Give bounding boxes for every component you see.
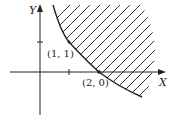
axes: [10, 8, 162, 115]
point-1-1-marker: [68, 41, 71, 44]
point-1-1-label: (1, 1): [47, 48, 74, 59]
point-2-0-label: (2, 0): [82, 77, 109, 88]
point-2-0-marker: [97, 70, 101, 74]
x-axis-label: X: [158, 76, 168, 89]
y-axis-label: Y: [29, 4, 38, 17]
x-axis-arrow-icon: [158, 69, 166, 75]
y-axis-arrow-icon: [37, 4, 43, 12]
region-diagram: Y X (1, 1) (2, 0): [0, 0, 176, 117]
